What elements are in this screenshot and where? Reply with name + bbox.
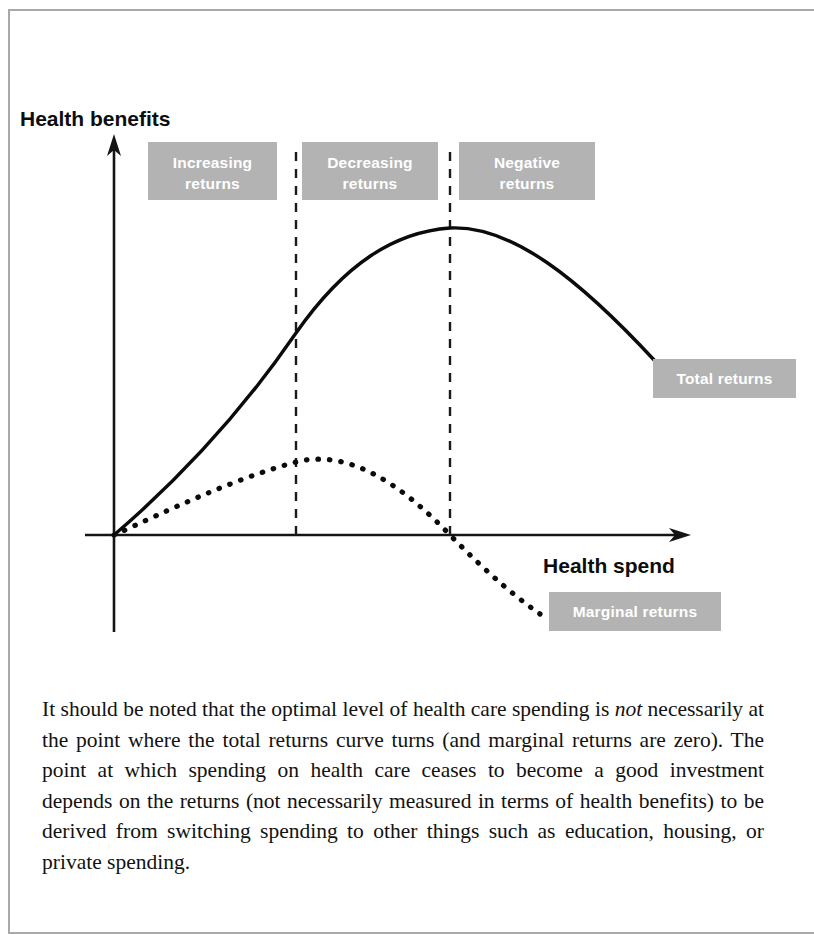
zone-label-decreasing-returns-line1: Decreasing	[327, 154, 413, 171]
figure-health-returns: Health benefits Health spend Increasin	[0, 0, 805, 670]
zone-label-decreasing-returns-line2: returns	[343, 175, 398, 192]
curve-label-total-returns-text: Total returns	[676, 370, 772, 387]
zone-label-negative-returns: Negative returns	[459, 142, 595, 200]
zone-label-increasing-returns-line2: returns	[185, 175, 240, 192]
y-axis-title: Health benefits	[20, 107, 171, 130]
zone-label-negative-returns-line2: returns	[500, 175, 555, 192]
zone-label-increasing-returns: Increasing returns	[148, 142, 277, 200]
zone-label-decreasing-returns: Decreasing returns	[302, 142, 438, 200]
body-paragraph: It should be noted that the optimal leve…	[42, 694, 764, 877]
x-axis-title: Health spend	[543, 554, 675, 577]
returns-chart-svg: Health benefits Health spend Increasin	[0, 0, 805, 670]
zone-label-increasing-returns-line1: Increasing	[173, 154, 253, 171]
curve-label-marginal-returns-text: Marginal returns	[573, 603, 698, 620]
curve-label-total-returns: Total returns	[653, 359, 796, 398]
curve-total-returns	[114, 228, 655, 535]
curve-marginal-returns	[114, 459, 540, 614]
zone-label-negative-returns-line1: Negative	[494, 154, 560, 171]
curve-label-marginal-returns: Marginal returns	[549, 592, 721, 631]
